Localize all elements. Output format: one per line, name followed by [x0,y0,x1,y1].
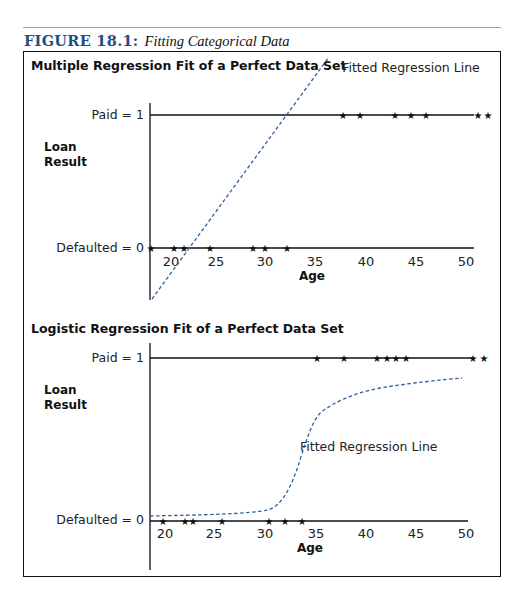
star-icon: ★ [313,353,322,364]
bottom-panel: Logistic Regression Fit of a Perfect Dat… [31,321,489,570]
star-icon: ★ [392,353,401,364]
star-icon: ★ [356,110,365,121]
bottom-fit-label: Fitted Regression Line [300,439,438,454]
bottom-xlabel: Age [297,541,323,555]
star-icon: ★ [340,353,349,364]
top-fit-line [152,57,329,299]
star-icon: ★ [147,243,156,254]
star-icon: ★ [249,243,258,254]
star-icon: ★ [261,243,270,254]
star-icon: ★ [391,110,400,121]
top-default-label: Defaulted = 0 [56,240,144,255]
tick-25: 25 [206,526,223,541]
star-icon: ★ [373,353,382,364]
tick-30: 30 [257,254,274,269]
star-icon: ★ [265,516,274,527]
star-icon: ★ [402,353,411,364]
tick-35: 35 [308,526,325,541]
top-paid-label: Paid = 1 [92,107,144,122]
bottom-ylabel-line2: Result [44,398,87,412]
star-icon: ★ [170,243,179,254]
bottom-paid-label: Paid = 1 [92,350,144,365]
top-xlabel: Age [299,269,325,283]
tick-50: 50 [458,526,475,541]
star-icon: ★ [484,110,493,121]
star-icon: ★ [281,516,290,527]
bottom-default-label: Defaulted = 0 [56,512,144,527]
star-icon: ★ [474,110,483,121]
figure-canvas: Multiple Regression Fit of a Perfect Dat… [0,0,521,602]
star-icon: ★ [206,243,215,254]
top-x-ticks: 20 25 30 35 40 45 50 [163,254,475,269]
tick-20: 20 [163,254,180,269]
bottom-x-ticks: 20 25 30 35 40 45 50 [157,526,475,541]
tick-20: 20 [157,526,174,541]
top-fit-label: Fitted Regression Line [342,60,480,75]
bottom-panel-title: Logistic Regression Fit of a Perfect Dat… [31,321,344,336]
star-icon: ★ [422,110,431,121]
star-icon: ★ [383,353,392,364]
bottom-ylabel-line1: Loan [44,383,77,397]
tick-50: 50 [458,254,475,269]
star-icon: ★ [298,516,307,527]
star-icon: ★ [407,110,416,121]
star-icon: ★ [189,516,198,527]
tick-30: 30 [257,526,274,541]
star-icon: ★ [283,243,292,254]
star-icon: ★ [469,353,478,364]
star-icon: ★ [480,353,489,364]
star-icon: ★ [159,516,168,527]
tick-45: 45 [408,526,425,541]
top-ylabel-line1: Loan [44,140,77,154]
top-ylabel-line2: Result [44,155,87,169]
tick-25: 25 [208,254,225,269]
top-panel-title: Multiple Regression Fit of a Perfect Dat… [31,58,346,73]
star-icon: ★ [218,516,227,527]
tick-45: 45 [408,254,425,269]
star-icon: ★ [180,243,189,254]
star-icon: ★ [339,110,348,121]
top-panel: Multiple Regression Fit of a Perfect Dat… [31,57,493,300]
tick-40: 40 [358,526,375,541]
tick-40: 40 [358,254,375,269]
tick-35: 35 [307,254,324,269]
